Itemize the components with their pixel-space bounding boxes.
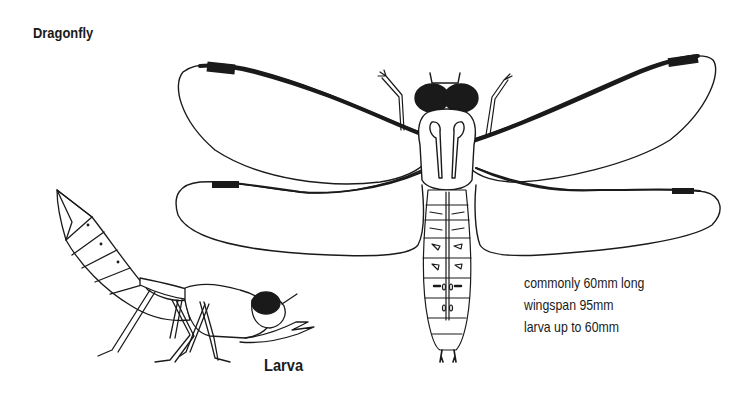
fact-wingspan: wingspan 95mm xyxy=(524,294,644,316)
hindwing-right xyxy=(475,168,720,256)
thorax xyxy=(419,109,476,190)
page-title: Dragonfly xyxy=(33,24,93,41)
larva-drawing xyxy=(57,190,314,362)
facts-list: commonly 60mm long wingspan 95mm larva u… xyxy=(524,272,644,338)
fact-length: commonly 60mm long xyxy=(524,272,644,294)
forewing-left xyxy=(178,62,428,184)
eye-right xyxy=(444,84,478,112)
dragonfly-illustration-page: Dragonfly Larva commonly 60mm long wings… xyxy=(0,0,753,399)
fact-larva-size: larva up to 60mm xyxy=(524,316,644,338)
forewing-right xyxy=(470,54,716,182)
larva-label: Larva xyxy=(264,356,303,376)
dragonfly-drawing xyxy=(0,0,753,399)
hindwing-left xyxy=(176,170,423,256)
abdomen xyxy=(423,190,471,362)
